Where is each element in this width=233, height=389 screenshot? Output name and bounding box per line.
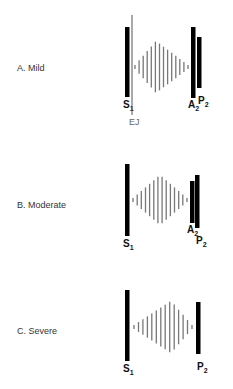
p2-sound-bar-mild [197,37,202,88]
p2-label-moderate: P2 [196,235,207,248]
a2-sound-bar-mild [191,27,196,98]
ej-label: EJ [129,117,140,127]
s1-sound-bar-moderate [125,164,130,236]
p2-sound-bar-moderate [195,175,200,228]
p2-label-mild: P2 [198,95,209,108]
a2-sound-bar-moderate [190,181,195,223]
phonocardiogram-diagram: S1EJA2P2S1A2P2S1P2 [0,0,233,389]
p2-sound-bar-severe [196,302,201,354]
s1-sound-bar-severe [125,290,130,361]
p2-label-severe: P2 [197,361,208,374]
s1-label-severe: S1 [123,363,134,376]
s1-sound-bar-mild [125,27,130,97]
s1-label-moderate: S1 [123,238,134,251]
